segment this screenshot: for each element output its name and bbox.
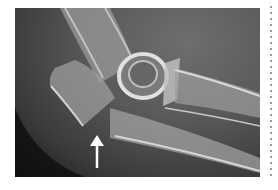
xray-image [15, 8, 260, 177]
dotted-border [270, 4, 272, 176]
elbow-bones [15, 8, 260, 177]
arrow-up-icon [90, 135, 104, 168]
